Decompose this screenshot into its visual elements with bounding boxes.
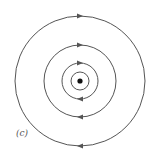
center-current-dot-icon [77,78,82,83]
arrow-right-icon [77,61,83,66]
arrow-left-icon [77,115,83,120]
arrow-left-icon [77,97,83,102]
arrow-right-icon [77,14,83,19]
arrow-left-icon [77,144,83,149]
arrow-right-icon [77,43,83,48]
figure-label: (c) [16,128,28,138]
